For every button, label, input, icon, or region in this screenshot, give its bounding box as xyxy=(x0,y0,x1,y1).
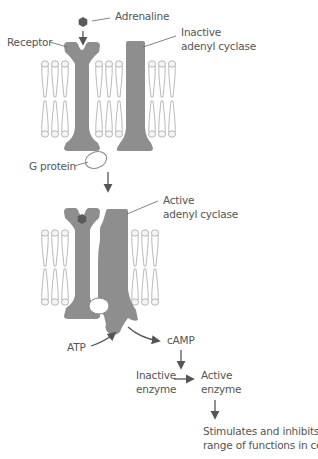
g-protein xyxy=(83,149,109,172)
label-camp: cAMP xyxy=(167,334,195,347)
label-adrenaline: Adrenaline xyxy=(115,10,169,23)
label-g-protein: G protein xyxy=(29,160,76,173)
label-outcome-line2: range of functions in cells xyxy=(203,439,318,452)
atp-arrow xyxy=(91,333,115,346)
inactive-ac-leader xyxy=(143,36,176,47)
active-adenyl-cyclase xyxy=(98,209,138,335)
label-active-ac-line2: adenyl cyclase xyxy=(163,208,238,221)
label-active-enzyme-line2: enzyme xyxy=(201,383,241,396)
label-active-ac-line1: Active xyxy=(163,194,194,207)
membrane-top xyxy=(41,61,175,137)
label-active-enzyme-line1: Active xyxy=(201,369,232,382)
label-inactive-ac-line2: adenyl cyclase xyxy=(181,40,256,53)
receptor-protein xyxy=(64,42,100,151)
label-inactive-enzyme-line2: enzyme xyxy=(136,383,176,396)
g-protein-bound xyxy=(89,298,109,314)
label-inactive-enzyme-line1: Inactive xyxy=(136,369,176,382)
adrenaline-molecule xyxy=(79,17,88,27)
label-receptor: Receptor xyxy=(7,36,52,49)
label-atp: ATP xyxy=(67,341,86,354)
active-ac-leader xyxy=(127,201,158,214)
camp-arrow xyxy=(128,327,159,341)
adrenaline-leader xyxy=(92,18,110,21)
label-outcome-line1: Stimulates and inhibits a xyxy=(203,425,318,438)
label-inactive-ac-line1: Inactive xyxy=(181,26,221,39)
